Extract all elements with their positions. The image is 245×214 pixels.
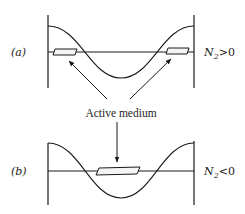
- active-medium-center: [96, 167, 140, 175]
- panel-b: (b) N2<0: [11, 141, 235, 205]
- condition-a: N2>0: [203, 46, 235, 61]
- panel-label-b: (b): [11, 165, 27, 178]
- panel-a: (a) N2>0: [11, 15, 235, 88]
- condition-b: N2<0: [203, 165, 235, 180]
- active-medium-right: [166, 48, 189, 54]
- arrow-to-left-medium: [69, 61, 107, 99]
- annotation: Active medium: [69, 59, 171, 162]
- active-medium-label: Active medium: [85, 107, 156, 119]
- active-medium-left: [53, 49, 77, 55]
- panel-label-a: (a): [11, 46, 26, 59]
- arrow-to-right-medium: [130, 59, 171, 99]
- resonator-mode-diagram: (a) N2>0 Active medium (b) N2<0: [0, 0, 245, 214]
